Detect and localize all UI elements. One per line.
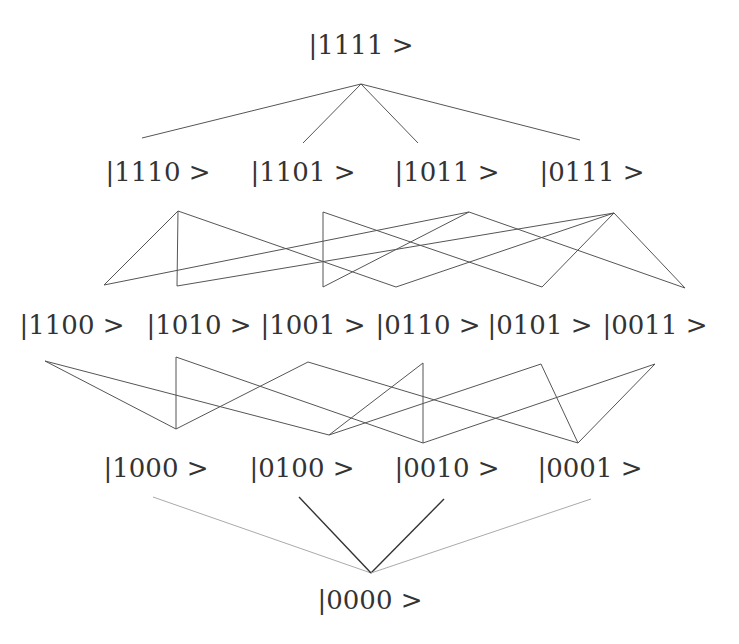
edge-line	[299, 497, 371, 573]
node-1011: |1011 >	[395, 159, 500, 185]
edge-line	[178, 211, 396, 287]
node-0000: |0000 >	[318, 587, 423, 613]
hasse-diagram: |1111 > |1110 > |1101 > |1011 > |0111 > …	[0, 0, 739, 644]
edge-line	[578, 364, 655, 443]
node-0001: |0001 >	[538, 455, 643, 481]
edge-line	[142, 84, 361, 138]
edge-line	[329, 364, 541, 435]
edge-line	[104, 211, 178, 285]
node-1111: |1111 >	[309, 32, 414, 58]
edge-line	[371, 499, 591, 573]
edge-line	[308, 362, 578, 443]
node-0111: |0111 >	[540, 159, 645, 185]
edge-line	[177, 211, 178, 286]
edge-line	[614, 213, 685, 288]
node-0011: |0011 >	[603, 312, 708, 338]
edge-line	[469, 212, 685, 288]
node-1100: |1100 >	[20, 312, 125, 338]
edge-line	[541, 364, 578, 443]
node-0110: |0110 >	[376, 312, 481, 338]
edge-line	[177, 213, 614, 286]
node-0101: |0101 >	[488, 312, 593, 338]
edge-line	[542, 213, 614, 287]
edge-line	[176, 362, 308, 429]
edge-line	[361, 84, 418, 143]
node-1110: |1110 >	[106, 159, 211, 185]
node-0100: |0100 >	[250, 455, 355, 481]
node-1101: |1101 >	[251, 159, 356, 185]
edge-line	[371, 499, 444, 573]
edge-line	[153, 497, 371, 573]
edge-line	[361, 84, 580, 140]
edge-line	[329, 363, 423, 435]
node-1000: |1000 >	[104, 455, 209, 481]
node-0010: |0010 >	[395, 455, 500, 481]
edge-line	[176, 357, 423, 443]
edge-line	[323, 212, 542, 287]
node-1010: |1010 >	[147, 312, 252, 338]
edge-line	[303, 84, 361, 143]
edge-line	[396, 213, 614, 287]
node-1001: |1001 >	[261, 312, 366, 338]
edge-line	[45, 361, 176, 429]
edge-line	[104, 212, 469, 285]
